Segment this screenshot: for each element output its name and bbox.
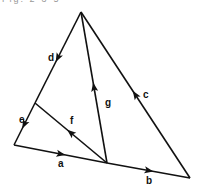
edges-layer (14, 12, 190, 178)
labels-layer: abcdefg (19, 52, 152, 186)
vector-label-c: c (143, 89, 149, 100)
vector-triangle-diagram: abcdefg (0, 0, 197, 194)
vector-label-a: a (58, 158, 64, 169)
vector-label-f: f (70, 115, 74, 126)
arrowhead-d-icon (53, 52, 63, 63)
arrows-layer (19, 52, 154, 174)
vector-label-e: e (19, 114, 25, 125)
vector-label-d: d (48, 52, 54, 63)
vector-label-b: b (146, 175, 152, 186)
arrowhead-c-icon (130, 89, 141, 100)
vector-label-g: g (105, 97, 111, 108)
